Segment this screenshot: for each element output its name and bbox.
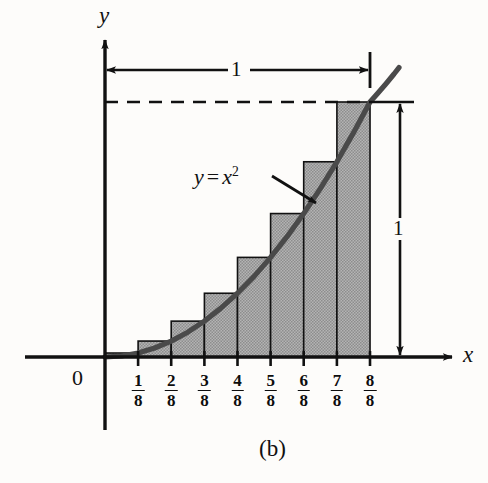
fraction-numerator: 7 — [331, 372, 344, 391]
fraction-denominator: 8 — [132, 391, 145, 410]
rectangle-bar — [204, 293, 237, 357]
rectangle-bar — [238, 257, 271, 357]
x-tick-label: 78 — [331, 372, 344, 410]
x-tick-label: 18 — [132, 372, 145, 410]
fraction-denominator: 8 — [331, 391, 344, 410]
curve-label-x: x — [222, 164, 232, 189]
figure-container: y x 0 1 1 (b) y=x2 1828384858687888 — [0, 0, 488, 483]
riemann-rectangles — [105, 102, 370, 357]
fraction-numerator: 1 — [132, 372, 145, 391]
fraction-numerator: 3 — [198, 372, 211, 391]
fraction-numerator: 5 — [264, 372, 277, 391]
fraction-numerator: 8 — [364, 372, 377, 391]
x-tick-label: 88 — [364, 372, 377, 410]
riemann-sum-plot — [0, 0, 488, 483]
x-tick-label: 28 — [165, 372, 178, 410]
y-axis-label: y — [99, 4, 109, 27]
curve-label-equals: = — [204, 164, 222, 189]
fraction-denominator: 8 — [364, 391, 377, 410]
fraction-numerator: 6 — [298, 372, 311, 391]
fraction-denominator: 8 — [198, 391, 211, 410]
curve-label-y: y — [194, 164, 204, 189]
figure-caption: (b) — [259, 437, 286, 460]
x-tick-label: 58 — [264, 372, 277, 410]
width-dimension-label: 1 — [231, 59, 242, 80]
fraction-denominator: 8 — [231, 391, 244, 410]
curve-label-exponent: 2 — [232, 164, 239, 179]
origin-label: 0 — [72, 367, 83, 389]
height-dimension-label: 1 — [393, 218, 404, 239]
rectangle-bar — [337, 102, 370, 357]
x-tick-label: 68 — [298, 372, 311, 410]
fraction-denominator: 8 — [298, 391, 311, 410]
fraction-numerator: 2 — [165, 372, 178, 391]
fraction-denominator: 8 — [165, 391, 178, 410]
fraction-denominator: 8 — [264, 391, 277, 410]
fraction-numerator: 4 — [231, 372, 244, 391]
curve-equation-label: y=x2 — [194, 166, 239, 188]
x-tick-label: 48 — [231, 372, 244, 410]
x-tick-label: 38 — [198, 372, 211, 410]
x-axis-label: x — [463, 343, 473, 366]
